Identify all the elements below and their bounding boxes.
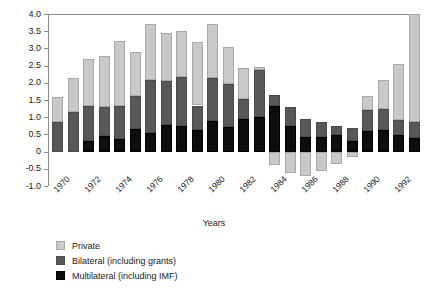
bar-group	[207, 14, 218, 186]
bar-group	[378, 14, 389, 186]
bar-segment-multilateral	[145, 133, 156, 152]
bar-segment-private	[393, 64, 404, 120]
bar-segment-bilateral	[316, 122, 327, 137]
bar-segment-bilateral	[68, 112, 79, 152]
bar-segment-private	[238, 68, 249, 100]
bar-segment-bilateral	[192, 106, 203, 131]
bar-segment-bilateral	[254, 70, 265, 116]
y-tick-mark	[44, 186, 48, 187]
bar-segment-multilateral	[300, 137, 311, 151]
bar-segment-bilateral	[331, 126, 342, 135]
bar-segment-bilateral	[207, 78, 218, 121]
bar-group	[176, 14, 187, 186]
bar-segment-private	[285, 152, 296, 173]
bar-segment-bilateral	[347, 128, 358, 141]
bar-segment-private	[409, 14, 420, 122]
bar-segment-multilateral	[223, 127, 234, 152]
bar-segment-private	[269, 152, 280, 166]
bar-group	[130, 14, 141, 186]
bar-segment-bilateral	[161, 81, 172, 125]
bar-group	[99, 14, 110, 186]
bar-segment-multilateral	[316, 137, 327, 151]
bar-segment-bilateral	[83, 106, 94, 140]
bar-segment-multilateral	[409, 138, 420, 152]
bar-segment-multilateral	[161, 125, 172, 151]
bar-group	[145, 14, 156, 186]
bar-segment-bilateral	[223, 84, 234, 127]
bar-series-container	[48, 14, 420, 186]
bar-group	[254, 14, 265, 186]
bar-group	[52, 14, 63, 186]
legend-item-multilateral: Multilateral (including IMF)	[56, 268, 178, 283]
bar-segment-multilateral	[130, 129, 141, 151]
bar-group	[269, 14, 280, 186]
legend-item-private: Private	[56, 238, 178, 253]
y-tick-label: 3.0	[28, 44, 41, 53]
bar-group	[300, 14, 311, 186]
legend-swatch-bilateral-icon	[56, 256, 65, 265]
bar-group	[68, 14, 79, 186]
bar-segment-bilateral	[362, 110, 373, 131]
bar-segment-bilateral	[300, 119, 311, 137]
bar-segment-private	[300, 152, 311, 176]
bar-segment-private	[316, 152, 327, 171]
bar-segment-multilateral	[347, 141, 358, 152]
legend-swatch-multilateral-icon	[56, 271, 65, 280]
y-tick-label: -1.0	[25, 182, 41, 191]
bar-segment-bilateral	[285, 107, 296, 126]
stacked-bar-chart: 4.03.53.02.52.01.51.00.50-0.5-1.0 197019…	[0, 0, 428, 290]
bar-segment-private	[347, 152, 358, 157]
bar-segment-private	[114, 41, 125, 106]
bar-segment-bilateral	[393, 120, 404, 135]
y-tick-label: 0.5	[28, 130, 41, 139]
bar-segment-multilateral	[99, 136, 110, 151]
bar-segment-private	[192, 42, 203, 106]
legend-item-bilateral: Bilateral (including grants)	[56, 253, 178, 268]
bar-segment-multilateral	[269, 106, 280, 151]
y-tick-label: 1.0	[28, 113, 41, 122]
bar-segment-multilateral	[207, 121, 218, 152]
bar-segment-bilateral	[378, 109, 389, 130]
y-tick-label: 4.0	[28, 10, 41, 19]
bar-segment-bilateral	[176, 77, 187, 127]
bar-group	[161, 14, 172, 186]
bar-group	[223, 14, 234, 186]
bar-segment-bilateral	[99, 107, 110, 136]
bar-group	[285, 14, 296, 186]
bar-group	[238, 14, 249, 186]
bar-segment-bilateral	[145, 80, 156, 132]
bar-segment-multilateral	[114, 139, 125, 152]
bar-segment-private	[254, 67, 265, 70]
bar-group	[347, 14, 358, 186]
y-tick-label: 2.5	[28, 61, 41, 70]
x-axis-labels: 1970197219741976197819801982198419861988…	[48, 188, 420, 222]
bar-segment-private	[68, 78, 79, 112]
legend-label-multilateral: Multilateral (including IMF)	[72, 271, 178, 281]
bar-segment-multilateral	[192, 130, 203, 151]
bar-segment-private	[52, 97, 63, 123]
bar-segment-bilateral	[52, 122, 63, 151]
bar-segment-private	[362, 96, 373, 110]
bar-segment-private	[130, 52, 141, 96]
bar-group	[114, 14, 125, 186]
bar-segment-multilateral	[83, 141, 94, 152]
bar-group	[192, 14, 203, 186]
bar-segment-multilateral	[378, 130, 389, 151]
y-tick-label: -0.5	[25, 164, 41, 173]
bar-group	[362, 14, 373, 186]
bar-group	[83, 14, 94, 186]
y-tick-label: 1.5	[28, 96, 41, 105]
bar-segment-bilateral	[269, 95, 280, 106]
bar-segment-multilateral	[362, 131, 373, 152]
legend-label-bilateral: Bilateral (including grants)	[72, 256, 176, 266]
bar-segment-multilateral	[331, 135, 342, 151]
bar-segment-private	[176, 31, 187, 76]
chart-legend: Private Bilateral (including grants) Mul…	[56, 238, 178, 283]
y-tick-label: 0	[36, 147, 41, 156]
y-tick-label: 2.0	[28, 78, 41, 87]
bar-segment-multilateral	[238, 119, 249, 152]
bar-segment-multilateral	[254, 117, 265, 152]
x-axis-title: Years	[0, 218, 428, 228]
bar-segment-private	[99, 56, 110, 107]
bar-segment-private	[378, 80, 389, 109]
